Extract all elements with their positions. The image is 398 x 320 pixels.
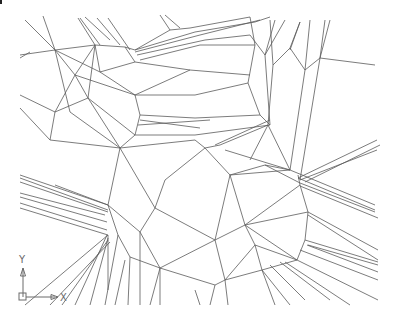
wireframe-canvas: Y X	[0, 0, 398, 320]
mesh-edge	[268, 65, 273, 125]
mesh-edge	[220, 125, 268, 145]
cad-drawing-viewport[interactable]: Y X	[0, 0, 398, 320]
mesh-edge	[150, 268, 160, 305]
mesh-edge	[195, 83, 248, 95]
mesh-edge	[280, 262, 330, 300]
mesh-edge	[120, 135, 135, 148]
mesh-edge	[225, 280, 228, 305]
mesh-edge	[140, 208, 155, 232]
mesh-edge	[100, 62, 135, 72]
mesh-edge	[100, 72, 135, 95]
mesh-edge	[262, 270, 290, 305]
mesh-edge	[95, 45, 125, 47]
mesh-edge	[88, 98, 120, 148]
mesh-edge	[195, 115, 260, 118]
ucs-y-label: Y	[18, 254, 26, 265]
mesh-edge	[255, 245, 262, 270]
mesh-edge	[20, 178, 108, 210]
mesh-edge	[205, 148, 230, 175]
mesh-edge	[55, 45, 95, 50]
mesh-edge	[20, 95, 55, 112]
mesh-edge	[245, 225, 297, 260]
mesh-edge	[300, 186, 378, 218]
mesh-edge	[118, 235, 130, 257]
mesh-edge	[165, 148, 205, 180]
mesh-edge	[320, 20, 325, 58]
mesh-edge	[135, 30, 170, 50]
mesh-edge	[298, 178, 375, 210]
mesh-edge	[305, 145, 380, 182]
mesh-edge	[160, 268, 215, 285]
mesh-edge	[43, 16, 55, 50]
mesh-edge	[305, 20, 310, 70]
mesh-edge	[305, 212, 308, 240]
mesh-edge	[250, 125, 268, 160]
mesh-edge	[135, 32, 195, 50]
mesh-edge	[290, 48, 305, 70]
mesh-edge	[230, 175, 245, 225]
mesh-edge	[135, 62, 190, 70]
mesh-edge	[55, 98, 88, 112]
mesh-edge	[62, 240, 108, 305]
mesh-edge	[108, 18, 130, 50]
mesh-edge	[215, 120, 270, 145]
mesh-edge	[50, 140, 120, 148]
mesh-edge	[205, 145, 220, 148]
mesh-edge	[297, 260, 378, 300]
mesh-edge	[215, 175, 230, 240]
mesh-edge	[320, 58, 375, 65]
mesh-edge	[290, 22, 300, 50]
mesh-edge	[115, 260, 125, 305]
mesh-edge	[170, 28, 190, 30]
triangulated-mesh	[20, 15, 380, 305]
mesh-edge	[160, 15, 170, 30]
mesh-edge	[215, 280, 225, 285]
mesh-edge	[215, 240, 225, 280]
mesh-edge	[128, 257, 130, 305]
mesh-edge	[50, 242, 110, 305]
mesh-edge	[305, 240, 378, 262]
mesh-edge	[160, 240, 215, 268]
mesh-edge	[195, 140, 205, 148]
mesh-edge	[78, 18, 95, 45]
mesh-edge	[190, 70, 250, 75]
mesh-edge	[155, 180, 165, 208]
mesh-edge	[88, 45, 95, 98]
mesh-edge	[140, 115, 195, 118]
mesh-edge	[255, 17, 270, 22]
mesh-edge	[130, 257, 160, 268]
mesh-edge	[285, 262, 350, 305]
mesh-edge	[320, 20, 330, 58]
mesh-edge	[298, 175, 300, 185]
mesh-edge	[50, 112, 55, 140]
ucs-x-label: X	[60, 292, 67, 303]
mesh-edge	[95, 45, 100, 72]
mesh-edge	[210, 285, 215, 305]
mesh-edge	[195, 290, 200, 305]
mesh-edge	[300, 250, 378, 280]
mesh-edge	[20, 108, 50, 140]
ucs-icon: Y X	[18, 254, 67, 303]
mesh-edge	[270, 265, 305, 300]
mesh-edge	[135, 95, 140, 115]
mesh-edge	[248, 45, 255, 83]
mesh-edge	[300, 58, 320, 180]
mesh-edge	[300, 183, 375, 212]
mesh-edge	[268, 125, 290, 170]
mesh-edge	[205, 35, 250, 40]
mesh-edge	[55, 75, 75, 112]
mesh-edge	[75, 75, 135, 95]
mesh-edge	[25, 20, 55, 50]
mesh-edge	[262, 270, 275, 305]
mesh-edge	[215, 225, 245, 240]
mesh-edge	[135, 70, 190, 95]
mesh-edge	[255, 245, 297, 260]
mesh-edge	[300, 150, 377, 180]
mesh-edge	[265, 20, 285, 55]
mesh-edge	[305, 58, 320, 70]
mesh-edge	[290, 70, 305, 170]
mesh-edge	[308, 245, 378, 265]
mesh-edge	[108, 148, 120, 205]
mesh-edge	[75, 235, 107, 305]
mesh-edge	[225, 245, 255, 280]
